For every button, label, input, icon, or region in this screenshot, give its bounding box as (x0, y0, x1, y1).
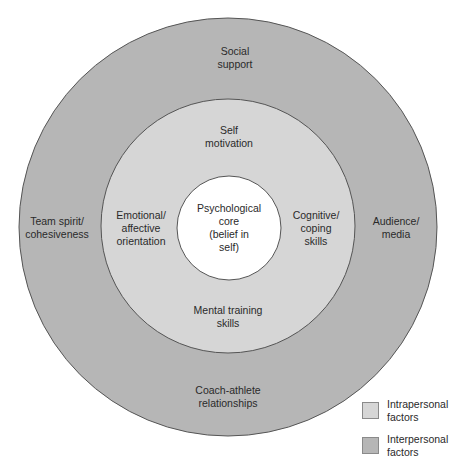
legend-swatch-interpersonal (362, 437, 379, 454)
label-coach-athlete: Coach-athlete relationships (195, 384, 260, 410)
label-psychological-core: Psychological core (belief in self) (197, 202, 261, 254)
label-cognitive-coping: Cognitive/ coping skills (293, 209, 340, 248)
label-social-support: Social support (217, 45, 252, 71)
label-emotional-affective: Emotional/ affective orientation (116, 209, 166, 248)
legend-swatch-intrapersonal (362, 402, 379, 419)
legend-intrapersonal: Intrapersonal factors (362, 398, 448, 424)
legend-label-interpersonal: Interpersonal factors (387, 433, 448, 459)
legend-label-intrapersonal: Intrapersonal factors (387, 398, 448, 424)
label-team-spirit: Team spirit/ cohesiveness (25, 215, 89, 241)
legend-interpersonal: Interpersonal factors (362, 433, 448, 459)
label-mental-training: Mental training skills (194, 304, 263, 330)
label-self-motivation: Self motivation (205, 124, 253, 150)
label-audience-media: Audience/ media (373, 215, 420, 241)
